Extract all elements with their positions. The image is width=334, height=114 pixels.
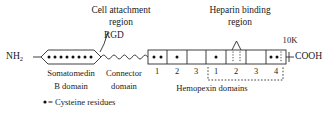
box-number-left-1: 1 <box>155 68 159 76</box>
box-number-right-1: 1 <box>214 68 218 76</box>
legend-text: = Cysteine residues <box>48 98 115 107</box>
heparin-binding-caret <box>232 41 241 50</box>
heparin-binding-label-line1: Heparin binding <box>209 6 270 15</box>
box-number-left-2: 2 <box>175 68 179 76</box>
ten-k-label: 10K <box>283 36 298 45</box>
cell-attachment-label-line2: region <box>109 18 133 27</box>
somatomedin-b-label-line2: B domain <box>54 82 88 91</box>
n-terminus-subscript: 2 <box>20 55 23 62</box>
box-number-right-3: 3 <box>254 68 258 76</box>
heparin-binding-label-line2: region <box>228 18 252 27</box>
n-terminus-label: NH2 <box>6 51 23 62</box>
legend-cysteine-dot <box>43 100 46 103</box>
box-number-right-2: 2 <box>234 68 238 76</box>
cell-attachment-label-line1: Cell attachment <box>91 6 150 15</box>
connector-domain-label-line1: Connector <box>106 69 142 78</box>
somatomedin-b-label-line1: Somatomedin <box>47 69 95 78</box>
c-terminus-label: COOH <box>295 51 322 61</box>
hemopexin-domains-label: Hemopexin domains <box>176 84 247 93</box>
hemopexin-domain-bracket <box>208 67 283 80</box>
box-number-left-3: 3 <box>194 68 198 76</box>
connector-domain-label-line2: domain <box>111 82 137 91</box>
c-terminus-bond <box>286 52 294 62</box>
n-terminus-text: NH <box>6 50 20 61</box>
box-number-right-4: 4 <box>274 68 278 76</box>
vitronectin-domain-diagram: Cell attachment region RGD Heparin bindi… <box>0 0 334 114</box>
rgd-label: RGD <box>104 31 124 40</box>
connector-domain-wavy-line <box>101 55 148 59</box>
